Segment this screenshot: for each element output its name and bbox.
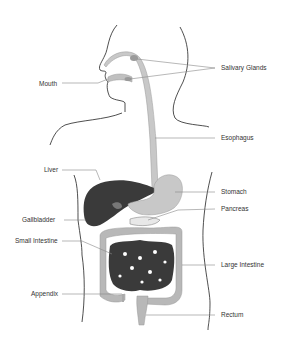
label-small-intestine: Small Intestine <box>15 237 58 245</box>
label-esophagus: Esophagus <box>221 134 254 142</box>
label-salivary-glands: Salivary Glands <box>221 64 267 72</box>
label-mouth: Mouth <box>39 80 57 88</box>
label-gallbladder: Gallbladder <box>22 216 55 224</box>
diagram-artwork <box>0 0 281 351</box>
appendix-shape <box>122 294 124 302</box>
rectum-shape <box>137 296 148 325</box>
label-stomach: Stomach <box>221 188 247 196</box>
digestive-system-diagram: Mouth Salivary Glands Esophagus Liver St… <box>0 0 281 351</box>
esophagus-shape <box>104 52 158 188</box>
label-liver: Liver <box>44 166 58 174</box>
label-rectum: Rectum <box>221 311 243 319</box>
label-large-intestine: Large Intestine <box>221 261 264 269</box>
pancreas-shape <box>130 217 160 226</box>
label-appendix: Appendix <box>31 290 58 298</box>
label-pancreas: Pancreas <box>221 205 248 213</box>
